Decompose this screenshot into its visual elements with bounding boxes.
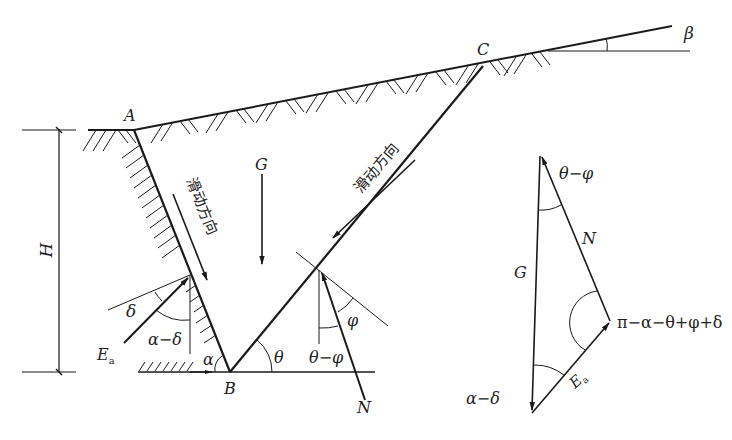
triangle-g-label: G bbox=[514, 263, 527, 282]
base-hatching bbox=[139, 362, 193, 371]
theta-minus-phi-label: θ−φ bbox=[309, 348, 344, 367]
reaction-arrow-icon bbox=[322, 273, 365, 400]
alpha-minus-delta-label: α−δ bbox=[148, 330, 182, 349]
point-c-label: C bbox=[477, 40, 489, 59]
ground-hatching-top bbox=[83, 52, 550, 151]
triangle-angle-bottom-label: α−δ bbox=[466, 389, 500, 408]
delta-label: δ bbox=[126, 301, 136, 321]
phi-label: φ bbox=[347, 311, 359, 330]
triangle-n-label: N bbox=[581, 229, 597, 248]
beta-label: β bbox=[683, 23, 694, 43]
diagram-canvas: H A B C β G 滑动方向 滑动方向 δ α−δ Ea α θ φ θ−φ… bbox=[0, 0, 732, 440]
earth-pressure-label: Ea bbox=[96, 345, 115, 366]
point-b-label: B bbox=[223, 379, 236, 398]
sliding-direction-label-left: 滑动方向 bbox=[182, 175, 221, 237]
ground-surface bbox=[88, 26, 690, 130]
force-triangle-g-arrow-icon bbox=[532, 156, 540, 410]
triangle-angle-right-label: π−α−θ+φ+δ bbox=[617, 313, 722, 332]
alpha-label: α bbox=[203, 350, 214, 369]
force-triangle-ea-arrow-icon bbox=[532, 323, 609, 413]
theta-label: θ bbox=[274, 348, 284, 367]
reaction-label: N bbox=[356, 398, 372, 417]
point-a-label: A bbox=[122, 106, 136, 125]
triangle-angle-top-label: θ−φ bbox=[559, 164, 594, 183]
height-label: H bbox=[36, 241, 56, 258]
weight-label: G bbox=[255, 155, 268, 174]
sliding-direction-label-right: 滑动方向 bbox=[350, 139, 402, 197]
